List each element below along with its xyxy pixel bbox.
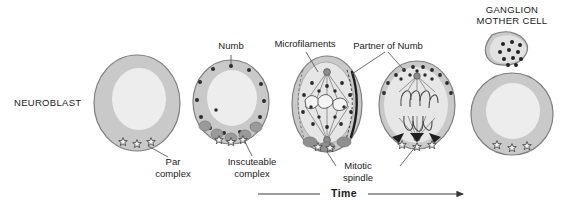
- spindle-pole-apical: [324, 69, 331, 76]
- leader-mitotic-spindle-4: [400, 146, 416, 166]
- label-par-complex-line1: Par: [150, 156, 196, 167]
- leader-partner-left: [352, 52, 385, 74]
- spindle-pole-apical-2: [414, 73, 420, 79]
- stage-5-daughter-cells: [471, 32, 553, 155]
- label-mitotic-line2: spindle: [330, 172, 386, 183]
- label-neuroblast: NEUROBLAST: [14, 97, 81, 108]
- leader-partner-right: [388, 52, 404, 70]
- neuroblast-division-figure: NEUROBLAST GANGLION MOTHER CELL Numb Mic…: [0, 0, 565, 210]
- stage-3-metaphase-neuroblast: [292, 56, 362, 152]
- label-inscuteable-line2: complex: [208, 168, 296, 179]
- label-inscuteable-line1: Inscuteable: [208, 156, 296, 167]
- leader-inscuteable: [244, 140, 252, 156]
- ganglion-mother-cell: [485, 32, 527, 67]
- label-ganglion-mother-cell-line1: GANGLION: [462, 4, 562, 15]
- leader-lines: [148, 52, 416, 166]
- stage-4-anaphase-neuroblast: [379, 61, 455, 151]
- label-partner-of-numb: Partner of Numb: [332, 40, 444, 51]
- label-ganglion-mother-cell-line2: MOTHER CELL: [462, 15, 562, 26]
- stage-1-interphase-neuroblast: [94, 55, 180, 151]
- label-par-complex-line2: complex: [141, 168, 205, 179]
- sibling-neuroblast: [471, 73, 553, 155]
- stage-2-polarized-neuroblast: [193, 60, 269, 146]
- label-mitotic-line1: Mitotic: [330, 160, 386, 171]
- label-time-axis: Time: [320, 188, 368, 199]
